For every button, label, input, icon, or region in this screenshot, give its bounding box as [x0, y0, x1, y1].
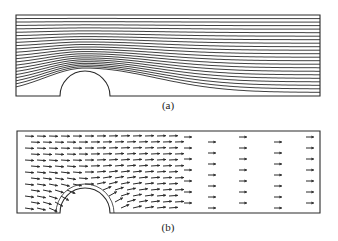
- arrow-head: [145, 140, 148, 143]
- streamline: [16, 45, 320, 51]
- panel-a-streamlines: [16, 15, 320, 96]
- arrow-head: [55, 171, 58, 174]
- arrow-head: [244, 146, 247, 149]
- arrow-head: [151, 158, 154, 161]
- arrow-head: [31, 147, 34, 150]
- arrow-head: [115, 158, 118, 161]
- arrow-head: [213, 151, 216, 154]
- arrow-head: [133, 140, 136, 143]
- arrow-head: [103, 146, 106, 149]
- arrow-head: [139, 170, 142, 173]
- caption-a: (a): [148, 99, 188, 111]
- arrow-head: [55, 135, 58, 138]
- arrow-head: [311, 179, 314, 182]
- arrow-head: [163, 206, 166, 209]
- arrow-head: [157, 176, 160, 179]
- arrow-head: [279, 206, 282, 209]
- arrow-head: [244, 179, 247, 182]
- arrow-head: [181, 140, 184, 143]
- arrow-head: [244, 190, 247, 193]
- arrow-head: [139, 158, 142, 161]
- arrow-head: [73, 165, 76, 168]
- arrow-head: [49, 141, 52, 144]
- arrow-head: [91, 170, 94, 173]
- arrow-head: [49, 153, 52, 156]
- arrow-head: [169, 140, 172, 143]
- arrow-head: [49, 165, 52, 168]
- arrow-head: [67, 147, 70, 150]
- arrow-head: [244, 157, 247, 160]
- arrow-head: [169, 164, 172, 167]
- arrow-head: [103, 158, 106, 161]
- arrow-head: [97, 140, 100, 143]
- arrow-head: [145, 164, 148, 167]
- arrow-head: [311, 168, 314, 171]
- arrow-head: [181, 176, 184, 179]
- streamline: [16, 28, 320, 29]
- arrow-head: [109, 164, 112, 167]
- arrow-head: [175, 158, 178, 161]
- arrow-head: [37, 177, 40, 180]
- arrow-head: [181, 152, 184, 155]
- arrow-head: [311, 201, 314, 204]
- arrow-head: [67, 159, 70, 162]
- arrow-head: [175, 146, 178, 149]
- arrow-head: [121, 140, 124, 143]
- arrow-head: [163, 134, 166, 137]
- arrow-head: [61, 165, 64, 168]
- arrow-head: [85, 141, 88, 144]
- arrow-head: [181, 164, 184, 167]
- arrow-head: [43, 147, 46, 150]
- arrow-head: [109, 140, 112, 143]
- arrow-head: [115, 146, 118, 149]
- arrow-head: [279, 140, 282, 143]
- arrow-head: [43, 135, 46, 138]
- arrow-head: [169, 152, 172, 155]
- arrow-head: [133, 164, 136, 167]
- arrow-head: [189, 157, 192, 160]
- arrow-head: [31, 159, 34, 162]
- arrow-head: [163, 146, 166, 149]
- arrow-head: [127, 170, 130, 173]
- arrow-head: [175, 194, 178, 197]
- arrow-head: [151, 182, 154, 185]
- arrow-head: [175, 170, 178, 173]
- arrow-head: [189, 201, 192, 204]
- arrow-head: [169, 200, 172, 203]
- streamline: [16, 63, 320, 81]
- arrow-head: [97, 176, 100, 179]
- arrow-head: [175, 134, 178, 137]
- arrow-head: [189, 168, 192, 171]
- arrow-head: [163, 158, 166, 161]
- arrow-head: [133, 152, 136, 155]
- arrow-head: [85, 153, 88, 156]
- arrow-head: [244, 201, 247, 204]
- arrow-head: [189, 146, 192, 149]
- caption-b: (b): [148, 221, 188, 233]
- arrow-head: [85, 177, 88, 180]
- arrow-head: [213, 173, 216, 176]
- arrow-head: [181, 188, 184, 191]
- arrow-head: [73, 141, 76, 144]
- arrow-head: [163, 182, 166, 185]
- arrow-head: [127, 146, 130, 149]
- arrow-head: [311, 135, 314, 138]
- arrow-head: [213, 206, 216, 209]
- arrow-head: [31, 183, 34, 186]
- arrow-head: [169, 188, 172, 191]
- arrow-head: [103, 170, 106, 173]
- arrow-head: [67, 171, 70, 174]
- arrow-head: [157, 152, 160, 155]
- arrow-head: [279, 173, 282, 176]
- streamline: [16, 37, 320, 40]
- arrow-head: [311, 146, 314, 149]
- arrow-head: [67, 135, 70, 138]
- arrow-head: [127, 134, 130, 137]
- arrow-head: [103, 134, 106, 137]
- panel-b-velocity-vectors: [17, 131, 320, 213]
- arrow-head: [311, 190, 314, 193]
- arrow-head: [97, 164, 100, 167]
- arrow-head: [145, 152, 148, 155]
- arrow-head: [91, 134, 94, 137]
- arrow-head: [55, 159, 58, 162]
